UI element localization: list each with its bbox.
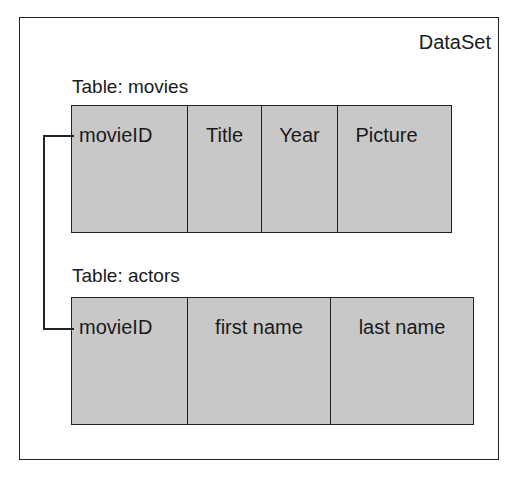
movies-col-movieid: movieID [72,106,188,232]
movies-table-label: Table: movies [72,76,188,98]
relation-line-top [43,135,74,137]
actors-col-movieid: movieID [72,298,188,424]
actors-col-first-name: first name [188,298,331,424]
relation-line-bottom [43,328,74,330]
actors-table: movieID first name last name [71,297,474,425]
actors-table-label: Table: actors [72,265,180,287]
movies-col-picture: Picture [338,106,451,232]
relation-line-vertical [43,135,45,329]
movies-col-title: Title [188,106,262,232]
movies-table: movieID Title Year Picture [71,105,452,233]
dataset-label: DataSet [419,31,491,54]
movies-col-year: Year [262,106,338,232]
actors-col-last-name: last name [331,298,473,424]
